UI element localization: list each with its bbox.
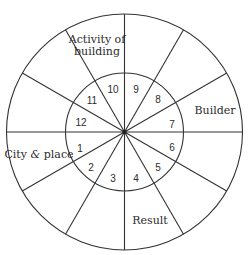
label-activity-of-building: Activity of building bbox=[69, 34, 126, 58]
sector-number: 7 bbox=[169, 119, 175, 130]
label-city-and-place: City & place bbox=[4, 149, 73, 161]
sector-number: 10 bbox=[107, 84, 118, 95]
sector-number: 2 bbox=[88, 162, 94, 173]
sector-number: 1 bbox=[77, 143, 83, 154]
label-builder: Builder bbox=[194, 105, 235, 117]
sector-number: 6 bbox=[169, 142, 175, 153]
label-result: Result bbox=[132, 215, 167, 227]
label-activity-line2: building bbox=[69, 46, 126, 58]
sector-number: 9 bbox=[133, 84, 139, 95]
sector-number: 3 bbox=[110, 173, 116, 184]
label-city: City bbox=[4, 148, 27, 161]
sector-number: 8 bbox=[155, 94, 161, 105]
sector-number: 5 bbox=[155, 162, 161, 173]
sector-number: 11 bbox=[87, 95, 97, 106]
sector-number: 4 bbox=[133, 173, 139, 184]
label-place: place bbox=[44, 148, 74, 161]
center-point bbox=[123, 130, 127, 134]
sector-number: 12 bbox=[75, 117, 86, 128]
ampersand-glyph: & bbox=[30, 148, 40, 161]
